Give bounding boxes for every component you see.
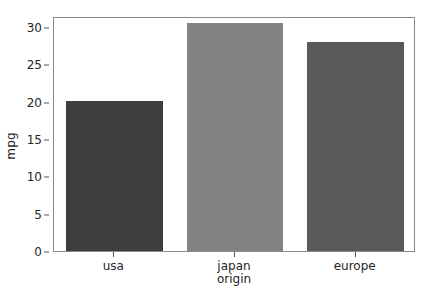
bar [307, 42, 404, 251]
bar [66, 101, 163, 251]
y-tick-mark [44, 28, 49, 29]
y-tick-mark [44, 140, 49, 141]
y-tick-mark [44, 177, 49, 178]
y-tick-label: 25 [27, 58, 42, 72]
bar-chart: mpg 051015202530 usajapaneurope origin [0, 0, 437, 292]
x-tick-label: usa [103, 259, 124, 273]
x-tick-label: japan [217, 259, 250, 273]
y-axis-ticks: 051015202530 [0, 0, 53, 292]
y-tick-mark [44, 252, 49, 253]
x-tick-mark [113, 252, 114, 257]
x-axis-label: origin [53, 272, 415, 286]
y-tick-mark [44, 214, 49, 215]
y-tick-label: 30 [27, 21, 42, 35]
y-tick-label: 5 [34, 208, 42, 222]
plot-area [53, 17, 415, 252]
x-tick-label: europe [334, 259, 376, 273]
x-tick-mark [355, 252, 356, 257]
y-tick-label: 20 [27, 96, 42, 110]
bar [187, 23, 284, 251]
bars-layer [54, 18, 414, 251]
y-tick-mark [44, 102, 49, 103]
x-tick-mark [234, 252, 235, 257]
y-tick-label: 10 [27, 170, 42, 184]
y-tick-label: 0 [34, 245, 42, 259]
y-tick-label: 15 [27, 133, 42, 147]
y-tick-mark [44, 65, 49, 66]
